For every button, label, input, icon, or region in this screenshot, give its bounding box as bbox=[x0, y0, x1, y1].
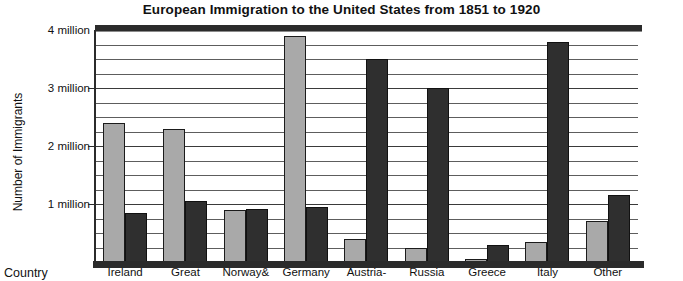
bar-light bbox=[586, 221, 608, 262]
top-axis-rule bbox=[95, 25, 642, 31]
bar-light bbox=[163, 129, 185, 262]
bar-dark bbox=[366, 59, 388, 262]
bar-dark bbox=[547, 42, 569, 262]
bar-light bbox=[525, 242, 547, 262]
y-axis-tick-label: 2 million bbox=[48, 140, 90, 152]
bar-dark bbox=[608, 195, 630, 262]
x-axis-tick-label: Norway& bbox=[216, 266, 276, 281]
bar-light bbox=[224, 210, 246, 262]
plot-area bbox=[95, 30, 638, 262]
bar-dark bbox=[487, 245, 509, 262]
bar-group bbox=[95, 30, 155, 262]
bar-dark bbox=[246, 209, 268, 262]
bar-light bbox=[344, 239, 366, 262]
bar-dark bbox=[185, 201, 207, 262]
bar-group bbox=[216, 30, 276, 262]
x-axis-tick-label: Germany bbox=[276, 266, 336, 281]
x-axis-tick-label: Italy bbox=[517, 266, 577, 281]
y-axis-tick-mark bbox=[88, 146, 95, 147]
bar-light bbox=[405, 248, 427, 263]
x-axis-title: Country bbox=[4, 266, 48, 280]
bar-light bbox=[284, 36, 306, 262]
y-axis-title: Number of Immigrants bbox=[11, 72, 25, 232]
bar-light bbox=[103, 123, 125, 262]
chart-title: European Immigration to the United State… bbox=[0, 2, 683, 17]
y-axis-tick-mark bbox=[88, 204, 95, 205]
bar-group bbox=[336, 30, 396, 262]
x-axis-tick-label: Greece bbox=[457, 266, 517, 281]
x-axis-tick-label: Austria- bbox=[336, 266, 396, 281]
y-axis-tick-label: 4 million bbox=[48, 24, 90, 36]
bar-group bbox=[155, 30, 215, 262]
bar-group bbox=[517, 30, 577, 262]
y-axis-tick-label: 1 million bbox=[48, 198, 90, 210]
bar-dark bbox=[427, 88, 449, 262]
bar-group bbox=[578, 30, 638, 262]
x-axis-tick-label: Great bbox=[155, 266, 215, 281]
x-axis-tick-label: Ireland bbox=[95, 266, 155, 281]
bar-group bbox=[457, 30, 517, 262]
bar-group bbox=[276, 30, 336, 262]
x-axis-tick-label: Other bbox=[578, 266, 638, 281]
y-axis-tick-mark bbox=[88, 88, 95, 89]
bar-dark bbox=[306, 207, 328, 262]
y-axis-tick-label: 3 million bbox=[48, 82, 90, 94]
x-axis-tick-labels: IrelandGreatNorway&GermanyAustria-Russia… bbox=[95, 266, 638, 281]
bar-groups bbox=[95, 30, 638, 262]
x-axis-tick-label: Russia bbox=[397, 266, 457, 281]
bar-dark bbox=[125, 213, 147, 262]
bar-group bbox=[397, 30, 457, 262]
